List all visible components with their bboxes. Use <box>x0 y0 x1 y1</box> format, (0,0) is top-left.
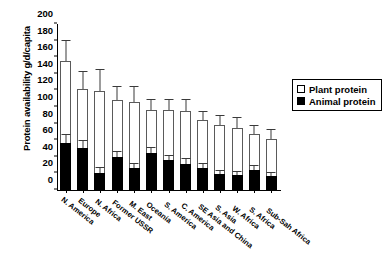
error-bar-animal <box>202 164 203 168</box>
y-tick-mark <box>54 155 57 156</box>
bar-column <box>197 120 208 190</box>
error-bar-cap-animal <box>61 134 70 135</box>
y-axis-title: Protein availability g/d/capita <box>21 0 32 179</box>
x-tick-mark <box>66 190 67 193</box>
error-bar-cap-total <box>233 117 242 118</box>
x-tick-mark <box>134 190 135 193</box>
error-bar-total <box>254 126 255 134</box>
error-bar-total <box>117 87 118 100</box>
error-bar-cap-total <box>113 86 122 87</box>
error-bar-cap-animal <box>78 140 87 141</box>
error-bar-cap-total <box>78 71 87 72</box>
error-bar-cap-total <box>147 99 156 100</box>
bar-segment-animal <box>197 168 208 190</box>
bar-column <box>249 134 260 190</box>
x-tick-mark <box>237 190 238 193</box>
error-bar-cap-total <box>267 129 276 130</box>
error-bar-cap-animal <box>181 158 190 159</box>
y-tick-label: 60 <box>42 124 57 135</box>
error-bar-animal <box>134 164 135 168</box>
bar-segment-animal <box>163 160 174 190</box>
bar-column <box>94 91 105 190</box>
error-bar-total <box>134 87 135 102</box>
x-tick-mark <box>220 190 221 193</box>
y-tick-mark <box>54 56 57 57</box>
x-tick-mark <box>169 190 170 193</box>
error-bar-total <box>151 100 152 110</box>
y-tick-label: 180 <box>37 24 57 35</box>
y-tick-label: 200 <box>37 8 57 19</box>
bar-segment-animal <box>266 176 277 190</box>
error-bar-total <box>168 100 169 111</box>
bar-segment-animal <box>77 148 88 190</box>
y-tick-mark <box>54 139 57 140</box>
error-bar-cap-animal <box>113 151 122 152</box>
error-bar-animal <box>117 152 118 157</box>
y-tick-mark <box>54 39 57 40</box>
error-bar-cap-animal <box>130 163 139 164</box>
bar-column <box>60 61 71 190</box>
error-bar-animal <box>185 159 186 164</box>
error-bar-total <box>202 112 203 120</box>
error-bar-animal <box>65 135 66 142</box>
x-tick-mark <box>271 190 272 193</box>
error-bar-cap-animal <box>233 171 242 172</box>
bar-column <box>163 110 174 190</box>
bar-segment-animal <box>112 157 123 190</box>
error-bar-cap-total <box>181 99 190 100</box>
x-tick-mark <box>254 190 255 193</box>
error-bar-cap-total <box>61 40 70 41</box>
y-tick-label: 20 <box>42 157 57 168</box>
bar-column <box>232 128 243 190</box>
error-bar-animal <box>219 171 220 174</box>
x-tick-mark <box>186 190 187 193</box>
y-tick-mark <box>54 106 57 107</box>
error-bar-cap-animal <box>198 163 207 164</box>
error-bar-cap-animal <box>267 172 276 173</box>
bar-segment-animal <box>232 175 243 190</box>
x-tick-mark <box>100 190 101 193</box>
error-bar-total <box>82 72 83 89</box>
error-bar-animal <box>271 173 272 176</box>
chart-legend: Plant protein Animal protein <box>292 79 382 111</box>
bar-segment-animal <box>180 164 191 190</box>
error-bar-total <box>65 41 66 62</box>
error-bar-cap-animal <box>147 147 156 148</box>
y-tick-label: 80 <box>42 107 57 118</box>
y-tick-label: 160 <box>37 41 57 52</box>
error-bar-cap-total <box>130 86 139 87</box>
bar-segment-animal <box>146 153 157 190</box>
legend-item-plant: Plant protein <box>297 83 376 95</box>
error-bar-animal <box>82 141 83 148</box>
error-bar-animal <box>99 168 100 172</box>
protein-availability-chart: Protein availability g/d/capita 02040608… <box>0 0 387 257</box>
y-tick-mark <box>54 72 57 73</box>
error-bar-animal <box>151 148 152 153</box>
y-tick-mark <box>54 172 57 173</box>
y-tick-label: 40 <box>42 140 57 151</box>
y-tick-label: 0 <box>48 174 57 185</box>
y-tick-label: 120 <box>37 74 57 85</box>
error-bar-total <box>219 116 220 125</box>
bar-column <box>112 100 123 190</box>
y-tick-mark <box>54 122 57 123</box>
legend-swatch-plant-icon <box>297 85 305 93</box>
bar-segment-animal <box>249 170 260 190</box>
bar-column <box>180 111 191 190</box>
legend-label-animal: Animal protein <box>309 96 376 107</box>
legend-item-animal: Animal protein <box>297 95 376 107</box>
y-tick-label: 100 <box>37 91 57 102</box>
error-bar-cap-animal <box>95 167 104 168</box>
error-bar-cap-animal <box>215 170 224 171</box>
error-bar-cap-total <box>95 69 104 70</box>
y-tick-label: 140 <box>37 57 57 68</box>
error-bar-animal <box>168 156 169 160</box>
error-bar-cap-total <box>215 115 224 116</box>
error-bar-animal <box>254 166 255 170</box>
y-tick-mark <box>54 89 57 90</box>
y-tick-mark <box>54 23 57 24</box>
error-bar-cap-total <box>198 111 207 112</box>
legend-label-plant: Plant protein <box>309 84 367 95</box>
y-tick-mark <box>54 189 57 190</box>
bar-column <box>266 139 277 190</box>
